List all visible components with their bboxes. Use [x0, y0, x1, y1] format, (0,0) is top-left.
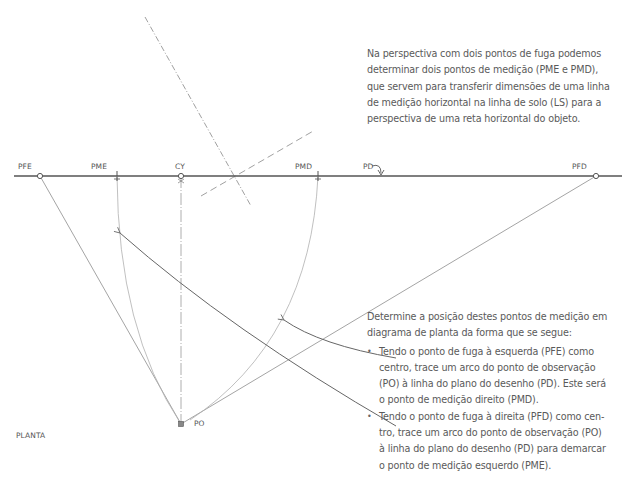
bullet-2-line: o ponto de medição esquerdo (PME).: [379, 458, 633, 474]
bullet-1-line: centro, trace um arco do ponto de observ…: [379, 360, 633, 376]
label-pd: PD: [363, 162, 374, 171]
label-pfe: PFE: [18, 162, 32, 171]
bullet-1-line: (PO) à linha do plano do desenho (PD). E…: [379, 376, 633, 392]
bullet-2-line: à linha do plano do desenho (PD) para de…: [379, 441, 633, 457]
bullet-2-line: Tendo o ponto de fuga à direita (PFD) co…: [379, 409, 633, 425]
pfe-point-icon: [37, 173, 42, 178]
leader-arrow-to-pme-arc: [120, 233, 396, 426]
label-planta: PLANTA: [16, 431, 45, 440]
note-top-line: que servem para transferir dimensões de …: [367, 79, 633, 95]
note-top-line: determinar dois pontos de medição (PME e…: [367, 62, 633, 78]
pfd-point-icon: [593, 173, 598, 178]
label-pfd: PFD: [572, 162, 587, 171]
label-pme: PME: [91, 162, 107, 171]
cy-point-icon: [178, 173, 183, 178]
bullet-1-line: Tendo o ponto de fuga à esquerda (PFE) c…: [379, 344, 633, 360]
note-instructions: Determine a posição destes pontos de med…: [367, 309, 633, 474]
note-intro-line: diagrama de planta da forma que se segue…: [367, 325, 633, 341]
bullet-2-line: tro, trace um arco do ponto de observaçã…: [379, 425, 633, 441]
note-top-line: Na perspectiva com dois pontos de fuga p…: [367, 46, 633, 62]
bullet-item-1: Tendo o ponto de fuga à esquerda (PFE) c…: [367, 344, 633, 409]
dashed-guide-line-1: [145, 17, 251, 206]
note-top: Na perspectiva com dois pontos de fuga p…: [367, 46, 633, 127]
bullet-1-line: o ponto de medição direito (PMD).: [379, 392, 633, 408]
note-intro-line: Determine a posição destes pontos de med…: [367, 309, 633, 325]
arc-pme-to-po: [117, 176, 181, 424]
po-point-icon: [179, 422, 184, 427]
note-top-line: perspectiva de uma reta horizontal do ob…: [367, 111, 633, 127]
label-cy: CY: [175, 162, 185, 171]
note-top-line: de medição horizontal na linha de solo (…: [367, 95, 633, 111]
arc-pmd-to-po: [190, 176, 318, 420]
bullet-item-2: Tendo o ponto de fuga à direita (PFD) co…: [367, 409, 633, 474]
label-pmd: PMD: [295, 162, 312, 171]
label-po: PO: [194, 419, 205, 428]
